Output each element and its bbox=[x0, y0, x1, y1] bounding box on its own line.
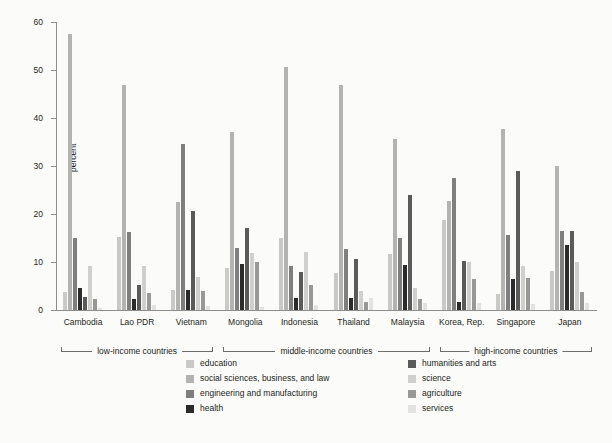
y-axis-line bbox=[56, 22, 57, 310]
bar bbox=[516, 171, 520, 310]
legend-item[interactable]: science bbox=[408, 374, 546, 383]
legend-swatch-icon bbox=[408, 375, 416, 383]
bar-group bbox=[171, 22, 211, 310]
x-axis-line bbox=[56, 310, 597, 311]
income-group-label: low-income countries bbox=[92, 344, 182, 358]
bar bbox=[176, 202, 180, 310]
bracket-cap-left bbox=[61, 347, 62, 352]
legend-item[interactable]: health bbox=[186, 404, 408, 413]
plot-area: percent 0102030405060 CambodiaLao PDRVie… bbox=[56, 22, 597, 310]
y-axis-tick: 0 bbox=[51, 310, 56, 311]
bar bbox=[467, 262, 471, 310]
chart-legend: educationhumanities and artssocial scien… bbox=[186, 356, 546, 416]
legend-swatch-icon bbox=[186, 360, 194, 368]
bar-group bbox=[225, 22, 265, 310]
bar bbox=[369, 298, 373, 310]
bar-group bbox=[550, 22, 590, 310]
bar bbox=[225, 268, 229, 310]
bar-group bbox=[334, 22, 374, 310]
bar bbox=[442, 220, 446, 310]
bar bbox=[137, 285, 141, 310]
bar bbox=[181, 144, 185, 310]
bar bbox=[122, 85, 126, 310]
x-axis-category-label: Korea, Rep. bbox=[439, 318, 484, 327]
y-axis-tick-label: 50 bbox=[34, 66, 43, 75]
x-axis-category-label: Indonesia bbox=[281, 318, 318, 327]
x-axis-category-label: Vietnam bbox=[176, 318, 207, 327]
y-axis-tick-label: 60 bbox=[34, 18, 43, 27]
bar bbox=[314, 305, 318, 310]
y-axis-tick-label: 30 bbox=[34, 162, 43, 171]
bar bbox=[260, 307, 264, 310]
bar bbox=[457, 302, 461, 310]
bar bbox=[230, 132, 234, 310]
legend-item[interactable]: social sciences, business, and law bbox=[186, 374, 408, 383]
bar bbox=[339, 85, 343, 310]
x-axis-category-label: Thailand bbox=[337, 318, 370, 327]
bar bbox=[289, 266, 293, 310]
legend-item[interactable]: engineering and manufacturing bbox=[186, 389, 408, 398]
bar bbox=[413, 288, 417, 310]
x-axis-category-label: Lao PDR bbox=[120, 318, 155, 327]
x-axis-category-label: Mongolia bbox=[228, 318, 263, 327]
bar bbox=[132, 299, 136, 310]
bar bbox=[206, 306, 210, 310]
x-axis-category-label: Japan bbox=[558, 318, 581, 327]
bar bbox=[560, 231, 564, 310]
bar-group bbox=[117, 22, 157, 310]
legend-item[interactable]: agriculture bbox=[408, 389, 546, 398]
bar bbox=[127, 232, 131, 310]
legend-swatch-icon bbox=[186, 390, 194, 398]
bar bbox=[393, 139, 397, 310]
bar bbox=[240, 264, 244, 310]
bar bbox=[299, 272, 303, 310]
bar bbox=[472, 279, 476, 310]
bar bbox=[147, 293, 151, 310]
bar bbox=[570, 231, 574, 310]
bar bbox=[447, 201, 451, 310]
bar bbox=[63, 292, 67, 310]
legend-item[interactable]: humanities and arts bbox=[408, 359, 546, 368]
y-axis-tick: 30 bbox=[51, 166, 56, 167]
legend-swatch-icon bbox=[408, 390, 416, 398]
bar bbox=[334, 273, 338, 310]
bar bbox=[117, 237, 121, 310]
y-axis-tick: 10 bbox=[51, 262, 56, 263]
bar bbox=[511, 279, 515, 310]
bar bbox=[235, 248, 239, 310]
bar bbox=[88, 266, 92, 310]
legend-swatch-icon bbox=[408, 360, 416, 368]
bar bbox=[388, 254, 392, 310]
y-axis-tick-label: 40 bbox=[34, 114, 43, 123]
x-axis-category-label: Singapore bbox=[496, 318, 535, 327]
bar bbox=[477, 303, 481, 310]
bar bbox=[196, 277, 200, 310]
bar bbox=[142, 266, 146, 310]
bar bbox=[398, 238, 402, 310]
y-axis-tick-label: 10 bbox=[34, 258, 43, 267]
bar bbox=[565, 245, 569, 310]
bar bbox=[531, 304, 535, 310]
bar bbox=[279, 238, 283, 310]
bar bbox=[245, 228, 249, 310]
bar bbox=[364, 302, 368, 310]
bar bbox=[403, 265, 407, 310]
bar bbox=[255, 262, 259, 310]
bar bbox=[462, 261, 466, 310]
x-axis-category-label: Cambodia bbox=[64, 318, 103, 327]
bar bbox=[250, 253, 254, 310]
bar bbox=[83, 297, 87, 310]
legend-swatch-icon bbox=[186, 405, 194, 413]
bar bbox=[506, 235, 510, 310]
legend-label: services bbox=[422, 404, 453, 413]
bracket-cap-right bbox=[212, 347, 213, 352]
legend-item[interactable]: education bbox=[186, 359, 408, 368]
legend-label: agriculture bbox=[422, 389, 462, 398]
bar bbox=[496, 294, 500, 310]
bar bbox=[186, 290, 190, 310]
legend-item[interactable]: services bbox=[408, 404, 546, 413]
legend-swatch-icon bbox=[408, 405, 416, 413]
bar bbox=[294, 298, 298, 310]
bar bbox=[526, 278, 530, 310]
bar bbox=[585, 303, 589, 310]
